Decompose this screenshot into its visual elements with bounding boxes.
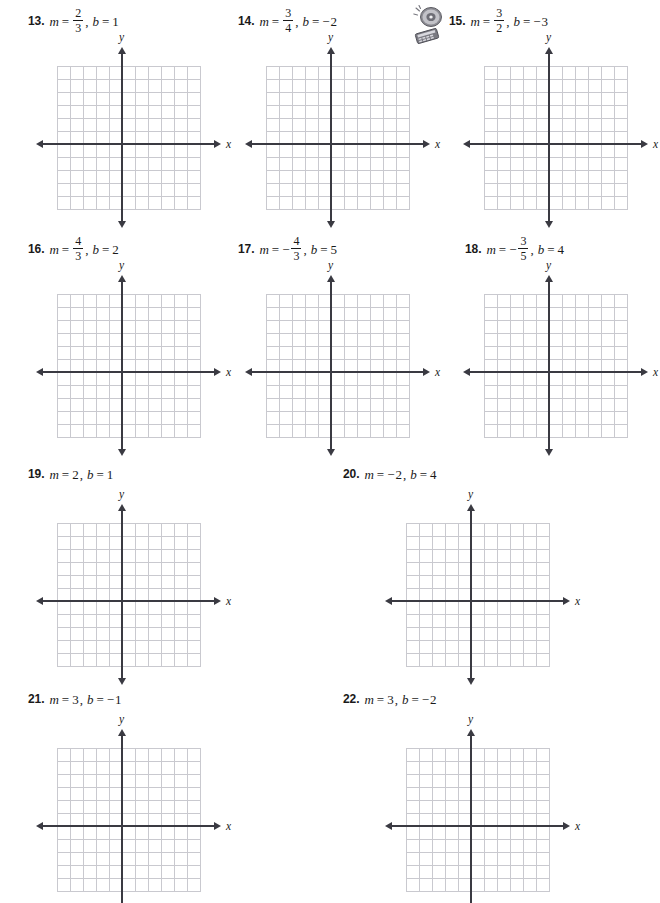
slope-fraction: 43: [73, 235, 83, 262]
problem-number-14: 14.: [238, 15, 254, 27]
x-axis-left-arrow: [245, 368, 252, 376]
x-axis-right-arrow: [641, 140, 648, 148]
slope-numerator: 3: [283, 7, 293, 20]
separator-comma: ,: [85, 243, 88, 256]
y-axis-up-arrow: [118, 504, 126, 511]
slope-symbol: m: [49, 243, 58, 256]
slope-denominator: 3: [73, 21, 83, 34]
x-axis-right-arrow: [423, 368, 430, 376]
slope-sign: −: [282, 243, 289, 256]
equals-sign: =: [420, 468, 427, 481]
cd-and-calculator-icon: [413, 5, 447, 45]
intercept-symbol: b: [402, 693, 409, 706]
intercept-value: 2: [331, 15, 338, 28]
y-axis-down-arrow: [545, 449, 553, 456]
slope-numerator: 2: [73, 7, 83, 20]
y-axis-up-arrow: [467, 729, 475, 736]
x-axis-left-arrow: [385, 822, 392, 830]
problem-number-20: 20.: [343, 468, 359, 480]
x-axis-17: [252, 371, 423, 373]
y-axis-14: [330, 54, 332, 221]
slope-fraction: 35: [518, 235, 528, 262]
equals-sign: =: [62, 243, 69, 256]
slope-value: 2: [395, 468, 402, 481]
x-axis-label: x: [226, 821, 231, 833]
x-axis-16: [43, 371, 214, 373]
grid-19: [57, 523, 201, 667]
y-axis-label: y: [119, 489, 124, 501]
problem-expression-18: m=−35,b=4: [486, 235, 564, 262]
problem-prompt-13: 13.m=23,b=1: [28, 10, 119, 32]
slope-value: 2: [72, 468, 79, 481]
problem-prompt-19: 19.m=2,b=1: [28, 463, 113, 485]
intercept-value: 1: [115, 693, 122, 706]
problem-number-17: 17.: [238, 243, 254, 255]
separator-comma: ,: [80, 693, 83, 706]
equals-sign: =: [102, 15, 109, 28]
slope-numerator: 3: [494, 7, 504, 20]
problem-prompt-21: 21.m=3,b=−1: [28, 688, 122, 710]
y-axis-up-arrow: [118, 275, 126, 282]
x-axis-left-arrow: [36, 140, 43, 148]
grid-17: [266, 294, 410, 438]
y-axis-up-arrow: [327, 47, 335, 54]
y-axis-up-arrow: [327, 275, 335, 282]
problem-number-22: 22.: [343, 693, 359, 705]
problem-expression-14: m=34,b=−2: [259, 7, 337, 34]
equals-sign: =: [62, 15, 69, 28]
y-axis-label: y: [328, 32, 333, 44]
x-axis-label: x: [226, 367, 231, 379]
problem-prompt-16: 16.m=43,b=2: [28, 238, 119, 260]
problem-expression-13: m=23,b=1: [49, 7, 118, 34]
y-axis-up-arrow: [118, 47, 126, 54]
problem-prompt-18: 18.m=−35,b=4: [465, 238, 564, 260]
y-axis-19: [121, 511, 123, 678]
problem-prompt-20: 20.m=−2,b=4: [343, 463, 437, 485]
x-axis-right-arrow: [423, 140, 430, 148]
slope-value: 3: [72, 693, 79, 706]
y-axis-down-arrow: [118, 678, 126, 685]
intercept-value: 1: [112, 15, 119, 28]
problem-expression-15: m=32,b=−3: [470, 7, 548, 34]
y-axis-down-arrow: [545, 221, 553, 228]
x-axis-22: [392, 825, 563, 827]
equals-sign: =: [499, 243, 506, 256]
intercept-value: 5: [331, 243, 338, 256]
x-axis-left-arrow: [36, 822, 43, 830]
x-axis-18: [470, 371, 641, 373]
x-axis-right-arrow: [214, 597, 221, 605]
problem-expression-20: m=−2,b=4: [364, 468, 436, 481]
grid-22: [406, 748, 550, 892]
equals-sign: =: [483, 15, 490, 28]
problem-expression-22: m=3,b=−2: [364, 693, 436, 706]
x-axis-21: [43, 825, 214, 827]
x-axis-right-arrow: [214, 822, 221, 830]
grid-20: [406, 523, 550, 667]
problem-expression-21: m=3,b=−1: [49, 693, 121, 706]
slope-fraction: 34: [283, 7, 293, 34]
slope-value: 3: [387, 693, 394, 706]
intercept-value: 2: [430, 693, 437, 706]
problem-expression-17: m=−43,b=5: [259, 235, 337, 262]
x-axis-left-arrow: [36, 597, 43, 605]
x-axis-left-arrow: [463, 140, 470, 148]
y-axis-label: y: [468, 714, 473, 726]
y-axis-label: y: [546, 260, 551, 272]
y-axis-15: [548, 54, 550, 221]
intercept-symbol: b: [311, 243, 318, 256]
equals-sign: =: [102, 243, 109, 256]
problem-expression-16: m=43,b=2: [49, 235, 118, 262]
intercept-symbol: b: [410, 468, 417, 481]
intercept-value: 4: [558, 243, 565, 256]
separator-comma: ,: [80, 468, 83, 481]
y-axis-label: y: [546, 32, 551, 44]
x-axis-left-arrow: [245, 140, 252, 148]
x-axis-left-arrow: [36, 368, 43, 376]
y-axis-22: [470, 736, 472, 903]
problem-prompt-15: 15.m=32,b=−3: [449, 10, 548, 32]
separator-comma: ,: [295, 15, 298, 28]
grid-18: [484, 294, 628, 438]
separator-comma: ,: [85, 15, 88, 28]
y-axis-down-arrow: [118, 449, 126, 456]
slope-symbol: m: [364, 693, 373, 706]
